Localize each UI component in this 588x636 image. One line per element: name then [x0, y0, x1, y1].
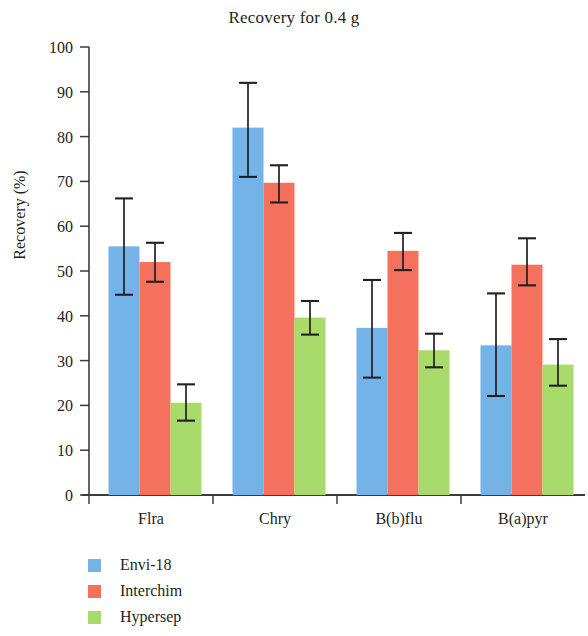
chart-legend: Envi-18 Interchim Hypersep [88, 552, 388, 630]
y-tick-label: 10 [57, 442, 73, 459]
bar-interchim-b-b-flu [388, 251, 419, 495]
bar-interchim-chry [264, 183, 295, 495]
y-tick-label: 30 [57, 353, 73, 370]
bar-envi-18-chry [233, 128, 264, 495]
x-category-label: B(b)flu [375, 510, 422, 528]
legend-item: Envi-18 [88, 552, 388, 578]
x-category-label: B(a)pyr [498, 510, 548, 528]
legend-label-interchim: Interchim [120, 583, 182, 599]
legend-swatch-envi-18 [88, 559, 101, 572]
bar-interchim-b-a-pyr [512, 265, 543, 495]
legend-swatch-interchim [88, 585, 101, 598]
bar-interchim-flra [140, 262, 171, 495]
y-tick-label: 80 [57, 129, 73, 146]
y-tick-label: 50 [57, 263, 73, 280]
x-axis-category-labels: FlraChryB(b)fluB(a)pyr [138, 510, 548, 528]
y-tick-label: 100 [49, 39, 73, 56]
y-tick-label: 60 [57, 218, 73, 235]
x-category-label: Flra [138, 510, 164, 527]
y-tick-label: 0 [65, 487, 73, 504]
x-axis-ticks [89, 495, 461, 504]
plot-area: 0102030405060708090100 FlraChryB(b)fluB(… [0, 0, 588, 540]
y-axis-ticks: 0102030405060708090100 [49, 39, 89, 504]
y-tick-label: 20 [57, 397, 73, 414]
legend-item: Hypersep [88, 604, 388, 630]
y-tick-label: 70 [57, 173, 73, 190]
y-tick-label: 40 [57, 308, 73, 325]
bar-hypersep-chry [295, 318, 326, 495]
bar-hypersep-b-b-flu [419, 350, 450, 495]
legend-swatch-hypersep [88, 611, 101, 624]
recovery-bar-chart: Recovery for 0.4 g Recovery (%) 01020304… [0, 0, 588, 636]
legend-label-hypersep: Hypersep [120, 609, 181, 625]
x-category-label: Chry [259, 510, 291, 528]
legend-label-envi-18: Envi-18 [120, 557, 172, 573]
bar-group-container [109, 128, 574, 495]
y-tick-label: 90 [57, 84, 73, 101]
legend-item: Interchim [88, 578, 388, 604]
